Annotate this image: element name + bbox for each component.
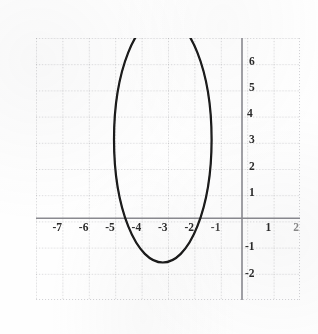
y-tick-label: 6 xyxy=(249,55,255,67)
x-tick-label: -5 xyxy=(105,221,115,233)
y-tick-label: 2 xyxy=(249,160,255,172)
y-tick-label: 3 xyxy=(249,133,255,145)
y-tick-label: -2 xyxy=(245,267,255,279)
x-tick-label: -7 xyxy=(52,221,62,233)
y-tick-label: 4 xyxy=(247,107,253,119)
coordinate-plane: -8 -7 -6 -5 -4 -3 -2 -1 1 2 6 5 4 3 2 1 … xyxy=(36,38,300,300)
x-tick-label: 2 xyxy=(293,221,299,233)
x-tick-label: -3 xyxy=(158,221,168,233)
x-tick-label: -1 xyxy=(211,221,221,233)
x-tick-label: 1 xyxy=(266,221,272,233)
x-tick-label: -2 xyxy=(184,221,194,233)
graph-svg: -8 -7 -6 -5 -4 -3 -2 -1 1 2 6 5 4 3 2 1 … xyxy=(36,38,300,300)
x-tick-label: -4 xyxy=(132,221,142,233)
y-tick-label: -1 xyxy=(245,240,255,252)
y-tick-label: 5 xyxy=(249,81,255,93)
y-tick-label: 1 xyxy=(249,186,255,198)
x-tick-label: -6 xyxy=(79,221,89,233)
graph-figure: -8 -7 -6 -5 -4 -3 -2 -1 1 2 6 5 4 3 2 1 … xyxy=(0,0,318,334)
